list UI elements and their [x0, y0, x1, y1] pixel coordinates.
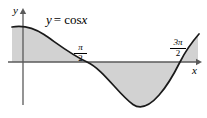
shaded-area-negative [87, 62, 180, 107]
tick-pi-over-2-denominator: 2 [74, 54, 87, 63]
x-axis-label: x [192, 65, 197, 76]
curve-equation-equals: = [52, 12, 63, 27]
curve-equation-function: cos [63, 12, 81, 27]
tick-pi-over-2-numerator: π [74, 43, 87, 52]
tick-3pi-over-2-denominator: 2 [170, 49, 186, 58]
tick-label-pi-over-2: π 2 [74, 43, 87, 64]
tick-3pi-over-2-numerator: 3π [170, 38, 186, 47]
cosine-graph-figure: y=cosx y x π 2 3π 2 [0, 0, 207, 118]
curve-equation-y: y [46, 12, 52, 27]
plot-canvas [0, 0, 207, 118]
tick-label-3pi-over-2: 3π 2 [170, 38, 186, 59]
y-axis-arrowhead [20, 8, 26, 14]
curve-equation-label: y=cosx [46, 13, 87, 26]
curve-equation-argument: x [81, 12, 87, 27]
y-axis-label: y [13, 5, 18, 16]
